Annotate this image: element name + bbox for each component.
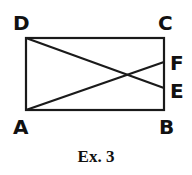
point-label-c: C [158, 13, 173, 33]
segment-de [26, 38, 164, 88]
point-label-b: B [159, 117, 174, 137]
figure-caption: Ex. 3 [0, 147, 192, 167]
point-label-d: D [13, 13, 30, 33]
rectangle-abcd [26, 38, 164, 110]
point-label-a: A [13, 117, 28, 137]
point-label-e: E [170, 81, 184, 101]
diagram-canvas: D C F E A B Ex. 3 [0, 0, 192, 175]
point-label-f: F [170, 53, 184, 73]
segment-af [26, 62, 164, 110]
